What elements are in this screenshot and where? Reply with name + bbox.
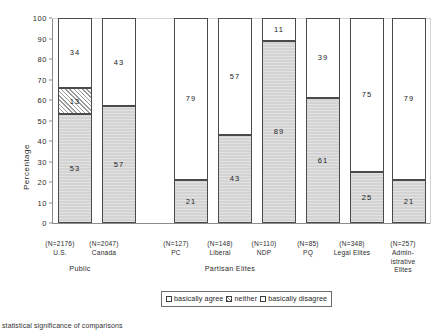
x-label-administrative-elites: (N=257) Admin- istrative Elites xyxy=(378,240,428,274)
x-label-us-n: (N=2176) xyxy=(35,240,85,249)
bar-us-agree[interactable]: 53 xyxy=(58,114,92,223)
y-axis-title: Percentage xyxy=(22,144,31,190)
legend-item-disagree[interactable]: basically disagree xyxy=(260,294,327,303)
legend-label-disagree: basically disagree xyxy=(268,294,327,303)
bar-administrative-elites[interactable]: 79 21 xyxy=(392,18,426,223)
y-tick-80: 80 xyxy=(37,55,47,64)
group-label-public: Public xyxy=(55,264,105,273)
legend-swatch-agree-icon xyxy=(166,296,172,302)
bar-us-neither[interactable]: 13 xyxy=(58,88,92,115)
x-label-legal-elites-name: Legal Elites xyxy=(325,249,379,258)
bar-us-disagree-value: 34 xyxy=(70,48,80,57)
bar-ndp-agree-value: 89 xyxy=(274,127,284,136)
x-label-canada: (N=2047) Canada xyxy=(79,240,129,258)
x-label-us: (N=2176) U.S. xyxy=(35,240,85,258)
x-label-administrative-elites-n: (N=257) xyxy=(378,240,428,249)
bar-ndp[interactable]: 11 89 xyxy=(262,18,296,223)
bar-liberal[interactable]: 57 43 xyxy=(218,18,252,223)
legend-item-agree[interactable]: basically agree xyxy=(166,294,223,303)
bar-administrative-elites-agree-value: 21 xyxy=(404,197,414,206)
legend-swatch-neither-icon xyxy=(226,296,232,302)
x-axis-line xyxy=(52,223,431,224)
x-label-us-name: U.S. xyxy=(35,249,85,258)
x-label-canada-name: Canada xyxy=(79,249,129,258)
bar-canada-disagree[interactable]: 43 xyxy=(102,18,136,106)
bar-legal-elites-disagree[interactable]: 75 xyxy=(350,18,384,172)
plot-area: 100 90 80 70 60 50 40 30 20 10 0 34 13 5 xyxy=(52,18,430,223)
bar-legal-elites-disagree-value: 75 xyxy=(362,90,372,99)
y-tick-10: 10 xyxy=(37,198,47,207)
bar-us-neither-value: 13 xyxy=(70,97,80,106)
bar-ndp-disagree-value: 11 xyxy=(274,25,284,34)
bar-administrative-elites-agree[interactable]: 21 xyxy=(392,180,426,223)
bar-pc-agree-value: 21 xyxy=(186,197,196,206)
x-label-ndp-name: NDP xyxy=(239,249,289,258)
y-tick-0: 0 xyxy=(42,219,47,228)
y-tick-30: 30 xyxy=(37,157,47,166)
bar-pc-disagree-value: 79 xyxy=(186,94,196,103)
bar-pq-disagree-value: 39 xyxy=(318,53,328,62)
x-label-liberal: (N=148) Liberal xyxy=(195,240,245,258)
plot-right-border xyxy=(430,18,431,224)
bar-liberal-agree-value: 43 xyxy=(230,174,240,183)
bar-legal-elites-agree[interactable]: 25 xyxy=(350,172,384,223)
x-label-administrative-elites-line3: Elites xyxy=(378,266,428,274)
x-label-legal-elites: (N=348) Legal Elites xyxy=(325,240,379,258)
bar-legal-elites-agree-value: 25 xyxy=(362,193,372,202)
bar-pq-agree-value: 61 xyxy=(318,156,328,165)
x-label-administrative-elites-line2: istrative xyxy=(378,258,428,266)
chart-root: Percentage 100 90 80 70 60 50 40 30 20 1… xyxy=(0,0,438,333)
y-tick-70: 70 xyxy=(37,75,47,84)
bar-canada-agree[interactable]: 57 xyxy=(102,106,136,223)
legend-label-agree: basically agree xyxy=(174,294,223,303)
bar-ndp-disagree[interactable]: 11 xyxy=(262,18,296,41)
x-label-ndp-n: (N=110) xyxy=(239,240,289,249)
bar-us-disagree[interactable]: 34 xyxy=(58,18,92,88)
y-tick-50: 50 xyxy=(37,116,47,125)
bar-liberal-disagree-value: 57 xyxy=(230,72,240,81)
y-tick-100: 100 xyxy=(33,14,47,23)
y-tick-20: 20 xyxy=(37,178,47,187)
bar-canada-agree-value: 57 xyxy=(114,160,124,169)
legend-label-neither: neither xyxy=(234,294,257,303)
x-label-canada-n: (N=2047) xyxy=(79,240,129,249)
bar-pq[interactable]: 39 61 xyxy=(306,18,340,223)
x-label-liberal-name: Liberal xyxy=(195,249,245,258)
y-tick-60: 60 xyxy=(37,96,47,105)
bar-us[interactable]: 34 13 53 xyxy=(58,18,92,223)
x-label-pc: (N=127) PC xyxy=(151,240,201,258)
legend-swatch-disagree-icon xyxy=(260,296,266,302)
bar-pc[interactable]: 79 21 xyxy=(174,18,208,223)
bar-pq-disagree[interactable]: 39 xyxy=(306,18,340,98)
x-label-liberal-n: (N=148) xyxy=(195,240,245,249)
bar-pc-agree[interactable]: 21 xyxy=(174,180,208,223)
bar-administrative-elites-disagree[interactable]: 79 xyxy=(392,18,426,180)
y-tick-90: 90 xyxy=(37,34,47,43)
x-label-ndp: (N=110) NDP xyxy=(239,240,289,258)
bar-liberal-agree[interactable]: 43 xyxy=(218,135,252,223)
bar-canada-disagree-value: 43 xyxy=(114,58,124,67)
chart-legend: basically agree neither basically disagr… xyxy=(161,291,332,307)
x-label-administrative-elites-line1: Admin- xyxy=(378,249,428,257)
x-label-pc-n: (N=127) xyxy=(151,240,201,249)
bar-ndp-agree[interactable]: 89 xyxy=(262,41,296,223)
bar-us-agree-value: 53 xyxy=(70,164,80,173)
legend-item-neither[interactable]: neither xyxy=(226,294,257,303)
bar-administrative-elites-disagree-value: 79 xyxy=(404,94,414,103)
bar-canada[interactable]: 43 57 xyxy=(102,18,136,223)
bar-liberal-disagree[interactable]: 57 xyxy=(218,18,252,135)
group-label-partisan-elites: Partisan Elites xyxy=(185,264,275,273)
y-tick-40: 40 xyxy=(37,137,47,146)
chart-footnote: statistical significance of comparisons xyxy=(2,322,123,329)
x-label-pc-name: PC xyxy=(151,249,201,258)
bar-pc-disagree[interactable]: 79 xyxy=(174,18,208,180)
bar-legal-elites[interactable]: 75 25 xyxy=(350,18,384,223)
bar-pq-agree[interactable]: 61 xyxy=(306,98,340,223)
x-label-legal-elites-n: (N=348) xyxy=(325,240,379,249)
